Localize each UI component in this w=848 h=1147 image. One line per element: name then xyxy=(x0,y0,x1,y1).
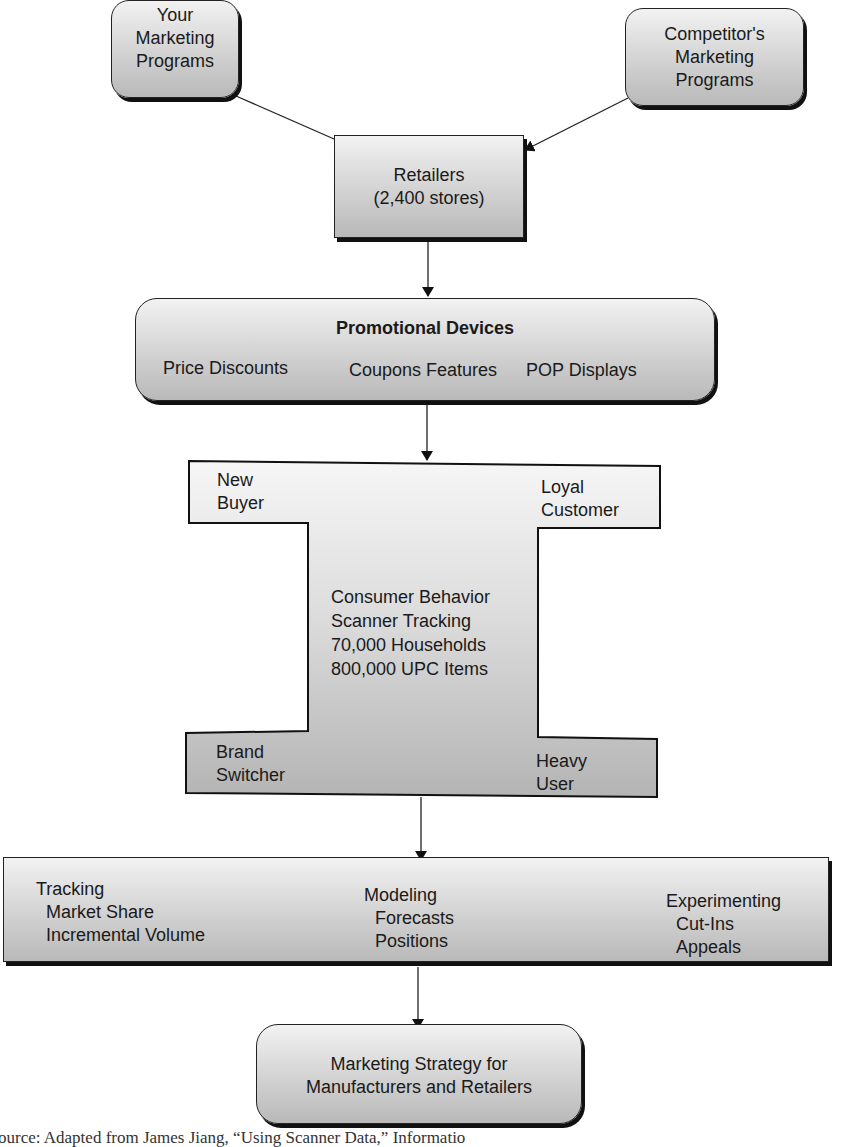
analysis-column-tracking: Tracking Market Share Incremental Volume xyxy=(36,878,205,947)
label-line: User xyxy=(536,773,587,796)
analysis-column-modeling: Modeling Forecasts Positions xyxy=(364,884,454,953)
marketing-strategy-node: Marketing Strategy for Manufacturers and… xyxy=(256,1024,582,1124)
label-line: Consumer Behavior xyxy=(331,585,490,609)
your-marketing-programs-node: Your Marketing Programs xyxy=(111,0,239,98)
promotional-devices-node: Promotional Devices Price Discounts Coup… xyxy=(135,298,715,401)
node-line: Retailers xyxy=(335,164,523,187)
column-item: Cut-Ins xyxy=(666,913,781,936)
corner-label-brand-switcher: Brand Switcher xyxy=(216,741,285,787)
node-line: (2,400 stores) xyxy=(335,187,523,210)
competitor-marketing-programs-node: Competitor's Marketing Programs xyxy=(625,8,804,106)
column-title: Experimenting xyxy=(666,890,781,913)
label-line: 70,000 Households xyxy=(331,633,490,657)
label-line: Customer xyxy=(541,499,619,522)
column-title: Tracking xyxy=(36,878,205,901)
retailers-node: Retailers (2,400 stores) xyxy=(334,135,524,238)
corner-label-new-buyer: New Buyer xyxy=(217,469,264,515)
node-line: Your xyxy=(112,4,238,27)
label-line: 800,000 UPC Items xyxy=(331,657,490,681)
node-line: Manufacturers and Retailers xyxy=(257,1076,581,1099)
column-item: Incremental Volume xyxy=(36,924,205,947)
label-line: Buyer xyxy=(217,492,264,515)
label-line: Scanner Tracking xyxy=(331,609,490,633)
column-item: Positions xyxy=(364,930,454,953)
node-line: Competitor's xyxy=(626,23,803,46)
analysis-node: Tracking Market Share Incremental Volume… xyxy=(3,857,829,962)
node-line: Programs xyxy=(112,50,238,73)
column-item: Appeals xyxy=(666,936,781,959)
source-caption: ource: Adapted from James Jiang, “Using … xyxy=(0,1128,465,1147)
label-line: New xyxy=(217,469,264,492)
promotional-devices-title: Promotional Devices xyxy=(136,317,714,340)
corner-label-heavy-user: Heavy User xyxy=(536,750,587,796)
column-item: Forecasts xyxy=(364,907,454,930)
node-line: Programs xyxy=(626,69,803,92)
label-line: Loyal xyxy=(541,476,619,499)
node-line: Marketing xyxy=(112,27,238,50)
column-item: Market Share xyxy=(36,901,205,924)
label-line: Heavy xyxy=(536,750,587,773)
column-title: Modeling xyxy=(364,884,454,907)
promo-item: POP Displays xyxy=(526,359,637,382)
node-line: Marketing Strategy for xyxy=(257,1053,581,1076)
consumer-behavior-center: Consumer Behavior Scanner Tracking 70,00… xyxy=(331,585,490,681)
node-line: Marketing xyxy=(626,46,803,69)
label-line: Switcher xyxy=(216,764,285,787)
corner-label-loyal-customer: Loyal Customer xyxy=(541,476,619,522)
label-line: Brand xyxy=(216,741,285,764)
analysis-column-experimenting: Experimenting Cut-Ins Appeals xyxy=(666,890,781,959)
promo-item: Coupons Features xyxy=(349,359,497,382)
promo-item: Price Discounts xyxy=(163,357,288,380)
